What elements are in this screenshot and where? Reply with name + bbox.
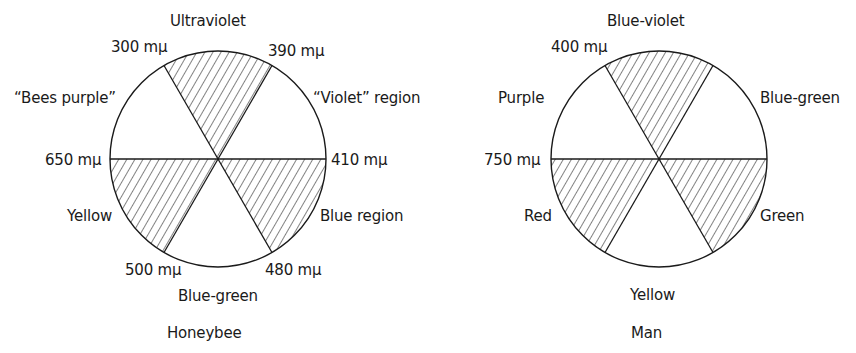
wavelength-label-top-left: 300 mμ — [111, 40, 167, 55]
region-label-lower-right: Blue region — [320, 209, 403, 224]
region-label-lower-left: Yellow — [67, 209, 112, 224]
hatched-sector-top — [164, 51, 272, 159]
hatched-sector-lower-right — [659, 159, 767, 253]
region-label-upper-left: “Bees purple” — [14, 91, 116, 106]
wavelength-label-right: 410 mμ — [331, 153, 387, 168]
region-label-lower-left: Red — [524, 209, 552, 224]
hatched-sector-lower-left — [110, 159, 218, 253]
region-label-upper-right: “Violet” region — [313, 91, 420, 106]
wavelength-label-top-left: 400 mμ — [551, 40, 607, 55]
honeybee-color-circle — [110, 51, 326, 267]
hatched-sector-lower-right — [218, 159, 326, 253]
caption-man: Man — [631, 326, 662, 341]
hatched-sector-lower-left — [551, 159, 659, 253]
region-label-upper-left: Purple — [498, 91, 544, 106]
man-color-circle — [551, 51, 767, 267]
region-label-upper-right: Blue-green — [760, 91, 840, 106]
hatched-sector-top — [605, 51, 713, 159]
caption-honeybee: Honeybee — [167, 326, 241, 341]
region-label-top: Blue-violet — [607, 14, 685, 29]
wavelength-label-left: 650 mμ — [45, 153, 101, 168]
region-label-bottom: Blue-green — [178, 289, 258, 304]
wavelength-label-left: 750 mμ — [484, 153, 540, 168]
region-label-bottom: Yellow — [630, 288, 675, 303]
wavelength-label-bottom-left: 500 mμ — [125, 263, 181, 278]
region-label-top: Ultraviolet — [170, 14, 246, 29]
wavelength-label-bottom-right: 480 mμ — [265, 263, 321, 278]
region-label-lower-right: Green — [760, 209, 804, 224]
wavelength-label-top-right: 390 mμ — [268, 44, 324, 59]
